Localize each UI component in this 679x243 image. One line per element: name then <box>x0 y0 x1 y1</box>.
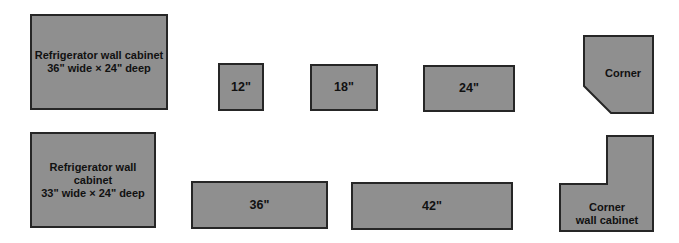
cabinet-label-line2: wall cabinet <box>562 214 652 227</box>
corner-cabinet-label: Corner <box>594 67 652 80</box>
cabinet-label: Corner <box>605 67 641 79</box>
cabinet-label-line1: Corner <box>562 201 652 214</box>
corner-wall-cabinet-label: Corner wall cabinet <box>562 201 652 227</box>
